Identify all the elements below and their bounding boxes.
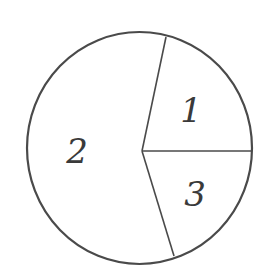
pie-outline xyxy=(27,32,252,264)
slice-label-3: 3 xyxy=(184,174,206,214)
slice-label-1: 1 xyxy=(180,90,202,130)
pie-chart: 1 2 3 xyxy=(0,0,265,279)
slice-label-2: 2 xyxy=(65,131,88,171)
